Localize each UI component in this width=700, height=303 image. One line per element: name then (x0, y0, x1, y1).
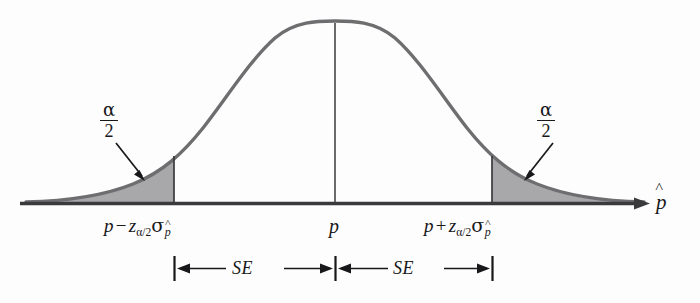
alpha-numerator-left: α (100, 100, 118, 121)
alpha-numerator-right: α (537, 100, 555, 121)
upper-bound-z-subscript: α/2 (456, 226, 471, 238)
lower-bound-base: p (104, 215, 114, 236)
distribution-drawing (0, 0, 700, 303)
p-hat-accent: ˄ (655, 179, 663, 194)
right-alpha-arrow (524, 143, 553, 181)
center-value-label: p (329, 216, 339, 236)
alpha-denominator-right: 2 (537, 121, 555, 141)
upper-bound-sigma: σ (471, 214, 484, 236)
se-bracket-group (175, 256, 493, 281)
p-hat-symbol: ˄p (656, 190, 667, 213)
lower-bound-z-subscript: α/2 (136, 226, 151, 238)
se-label-right: SE (393, 259, 414, 277)
right-tail-shaded-region (492, 157, 638, 202)
axis-variable-label: ˄p (656, 190, 667, 213)
upper-bound-operator: + (434, 215, 449, 236)
se-label-left: SE (232, 259, 253, 277)
upper-bound-base: p (424, 215, 434, 236)
upper-bound-sigma-subscript: ˄p (484, 226, 491, 238)
lower-bound-hat-accent: ˄ (164, 217, 171, 228)
alpha-over-two-left-label: α 2 (100, 100, 118, 142)
lower-bound-sigma-subscript: ˄p (164, 226, 171, 238)
upper-bound-hat-accent: ˄ (484, 217, 491, 228)
alpha-over-two-right-label: α 2 (537, 100, 555, 142)
left-alpha-arrow (116, 143, 145, 181)
alpha-denominator-left: 2 (100, 121, 118, 141)
lower-bound-label: p−zα/2σ˄p (104, 216, 171, 238)
upper-bound-label: p+zα/2σ˄p (424, 216, 491, 238)
normal-distribution-figure: α 2 α 2 p−zα/2σ˄p p p+zα/2σ˄p ˄p SE SE (0, 0, 700, 303)
lower-bound-operator: − (114, 215, 129, 236)
lower-bound-sigma: σ (151, 214, 164, 236)
